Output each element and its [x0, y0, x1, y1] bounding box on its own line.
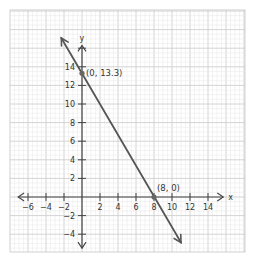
point-marker [151, 194, 156, 199]
x-tick-label: 2 [97, 203, 102, 212]
x-tick-label: 4 [115, 203, 120, 212]
x-tick-label: 14 [203, 203, 213, 212]
y-tick-label: 12 [65, 81, 75, 90]
x-tick-label: 6 [133, 203, 138, 212]
y-tick-label: 6 [70, 137, 75, 146]
y-tick-label: −2 [63, 212, 75, 221]
point-marker [79, 71, 84, 76]
grid [10, 10, 245, 252]
x-tick-label: −6 [22, 203, 34, 212]
x-axis-label: x [228, 193, 233, 202]
y-tick-label: 10 [65, 100, 75, 109]
x-tick-label: −4 [40, 203, 52, 212]
point-label: (0, 13.3) [86, 68, 122, 78]
y-tick-label: 14 [65, 63, 75, 72]
point-label: (8, 0) [157, 183, 180, 193]
y-tick-label: 4 [70, 156, 75, 165]
y-tick-label: −4 [63, 230, 75, 239]
x-tick-label: 12 [185, 203, 195, 212]
line-chart: xy −6−4−22468101214−4−22468101214 (0, 13… [0, 0, 253, 257]
x-tick-label: 8 [151, 203, 156, 212]
y-tick-label: 8 [70, 119, 75, 128]
y-tick-label: 2 [70, 174, 75, 183]
x-tick-label: 10 [167, 203, 177, 212]
y-axis-label: y [80, 34, 85, 43]
